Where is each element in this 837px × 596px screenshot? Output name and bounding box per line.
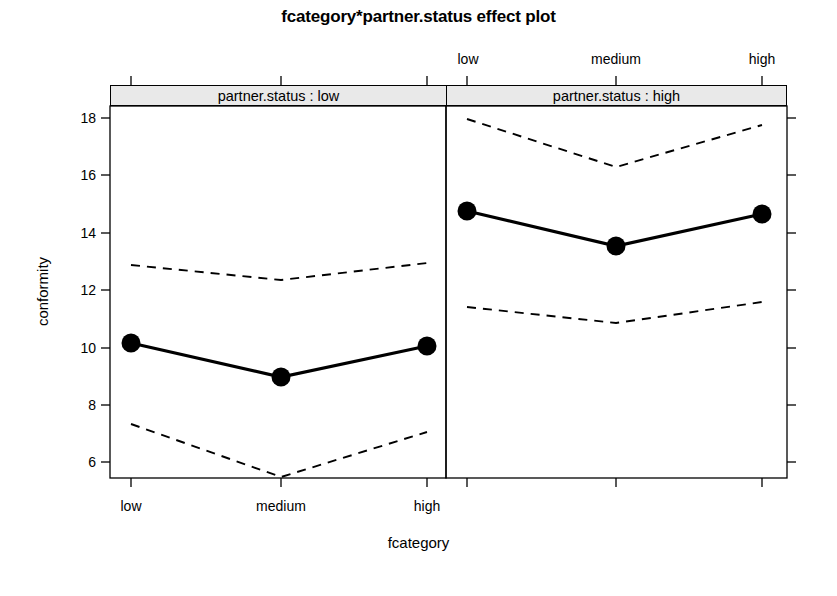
upper-confidence-band-high — [467, 119, 762, 167]
effect-plot: fcategory*partner.status effect plot fca… — [0, 0, 837, 596]
lower-confidence-band-low — [131, 424, 427, 477]
y-axis-ticks-right — [787, 118, 796, 462]
x-axis-ticks-bottom — [131, 478, 427, 487]
y-axis-ticks-left — [101, 118, 110, 462]
data-point — [272, 368, 291, 387]
data-point — [122, 334, 141, 353]
data-point — [607, 237, 626, 256]
x-axis-ticks-top — [467, 76, 762, 85]
x-axis-ticks-top-left-panel — [131, 76, 427, 85]
panel-frame-high — [446, 106, 787, 478]
lower-confidence-band-high — [467, 302, 762, 323]
panel-content-high — [458, 119, 772, 323]
x-axis-ticks-bottom-right-panel — [467, 478, 762, 487]
data-point — [418, 337, 437, 356]
panel-content-low — [122, 263, 437, 477]
panel-frame-low — [110, 106, 446, 478]
upper-confidence-band-low — [131, 263, 427, 280]
plot-canvas — [0, 0, 837, 596]
data-point — [753, 205, 772, 224]
data-point — [458, 202, 477, 221]
